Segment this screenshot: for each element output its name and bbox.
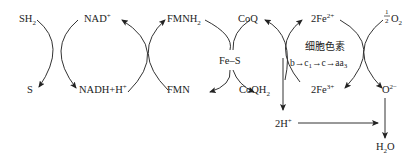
- label-nad-plus: NAD+: [84, 12, 111, 24]
- arrow-fmnh2-to-fmn: [148, 20, 168, 90]
- label-cytochrome-title: 细胞色素: [305, 40, 345, 52]
- svg-text:1: 1: [385, 8, 389, 16]
- label-2h-plus: 2H+: [275, 117, 292, 129]
- label-fe2: 2Fe2+: [311, 12, 334, 24]
- arrow-o2-to-o2minus: [364, 20, 383, 88]
- arrow-nadh-to-nad: [122, 20, 148, 92]
- svg-text:O2: O2: [391, 13, 403, 27]
- label-cytochrome-chain: b→c1→c→aa3: [290, 58, 348, 70]
- label-fmnh2: FMNH2: [167, 13, 201, 27]
- label-o2-minus: O2−: [382, 83, 397, 95]
- label-coqh2: CoQH2: [239, 84, 270, 98]
- arrow-fes-fmn: [210, 70, 230, 92]
- label-h2o: H2O: [376, 141, 395, 155]
- arrow-fmnh2-fes: [205, 20, 230, 50]
- electron-transport-diagram: SH2 S NAD+ NADH+H+ FMNH2 FMN Fe–S CoQ Co…: [0, 0, 418, 160]
- arrow-sh2-to-s: [37, 20, 53, 87]
- label-half-o2: 1 2 O2: [384, 8, 403, 27]
- arrow-fe3-to-fe2: [285, 20, 302, 82]
- arrow-nad-to-nadh: [61, 20, 78, 88]
- label-fmn: FMN: [167, 84, 190, 95]
- svg-text:2: 2: [385, 17, 389, 25]
- label-s: S: [27, 84, 33, 95]
- label-fe3: 2Fe3+: [311, 83, 334, 95]
- label-nadh: NADH+H+: [79, 83, 127, 95]
- arrow-coq-fes: [233, 20, 250, 50]
- label-coq: CoQ: [238, 13, 258, 24]
- label-sh2: SH2: [19, 13, 36, 27]
- label-fe-s: Fe–S: [219, 55, 241, 66]
- arrow-coqh2-to-coq: [265, 20, 288, 80]
- arrow-fe2-to-fe3: [340, 20, 364, 88]
